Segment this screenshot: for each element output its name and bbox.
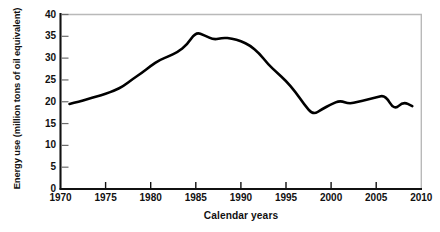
x-tick-label: 1970 xyxy=(49,193,71,203)
x-tick-label: 1990 xyxy=(230,193,252,203)
y-tick-marks xyxy=(62,15,69,168)
x-tick-label: 1980 xyxy=(140,193,162,203)
x-tick-label: 2000 xyxy=(320,193,342,203)
x-tick-label: 1985 xyxy=(185,193,207,203)
x-tick-label: 2005 xyxy=(365,193,387,203)
x-tick-marks xyxy=(106,182,377,188)
x-tick-label: 2010 xyxy=(410,193,432,203)
chart-figure: Energy use (million tons of oil equivale… xyxy=(0,0,440,232)
data-series-line xyxy=(70,33,413,113)
x-tick-label: 1975 xyxy=(94,193,116,203)
plot-frame xyxy=(60,13,423,190)
x-tick-label: 1995 xyxy=(275,193,297,203)
